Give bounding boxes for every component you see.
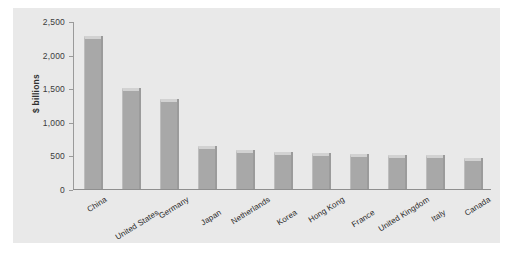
y-tick: [69, 89, 73, 90]
y-tick-label: 500: [50, 151, 65, 161]
x-axis-tick-label: France: [350, 208, 376, 229]
y-tick: [69, 190, 73, 191]
x-label-slot: France: [340, 191, 378, 243]
y-tick: [69, 22, 73, 23]
x-label-slot: Japan: [188, 191, 226, 243]
bar-slot: [453, 22, 491, 189]
bar-slot: [415, 22, 453, 189]
x-label-slot: Korea: [264, 191, 302, 243]
y-tick: [69, 156, 73, 157]
y-tick-label: 1,000: [43, 118, 65, 128]
x-label-slot: Canada: [454, 191, 492, 243]
bar-slot: [377, 22, 415, 189]
bar: [84, 36, 101, 189]
plot-area: 2,5002,0001,5001,0005000: [73, 22, 491, 190]
bar-slot: [264, 22, 302, 189]
y-tick: [69, 56, 73, 57]
y-tick: [69, 123, 73, 124]
bar: [350, 154, 367, 189]
bar-group: [74, 22, 491, 189]
bar-slot: [112, 22, 150, 189]
x-axis-tick-label: Canada: [463, 195, 492, 218]
bar: [236, 150, 253, 189]
x-axis-labels: ChinaUnited StatesGermanyJapanNetherland…: [74, 191, 492, 243]
bar: [312, 153, 329, 189]
y-tick-label: 2,500: [43, 17, 65, 27]
x-axis-tick-label: China: [86, 195, 109, 214]
bar-slot: [74, 22, 112, 189]
bar: [464, 158, 481, 189]
x-axis-tick-label: Japan: [199, 208, 223, 227]
chart-panel: $ billions 2,5002,0001,5001,0005000 Chin…: [13, 8, 500, 243]
y-tick-label: 2,000: [43, 51, 65, 61]
x-label-slot: Netherlands: [226, 191, 264, 243]
x-label-slot: United Kingdom: [378, 191, 416, 243]
x-label-slot: United States: [112, 191, 150, 243]
x-axis-tick-label: Korea: [275, 208, 298, 227]
x-axis-tick-label: Italy: [430, 208, 448, 224]
bar-slot: [339, 22, 377, 189]
y-tick-label: 0: [60, 185, 65, 195]
x-label-slot: Germany: [150, 191, 188, 243]
x-label-slot: China: [74, 191, 112, 243]
bar-slot: [226, 22, 264, 189]
bar: [160, 99, 177, 189]
bar-slot: [301, 22, 339, 189]
bar: [122, 88, 139, 189]
x-label-slot: Hong Kong: [302, 191, 340, 243]
bar: [388, 155, 405, 189]
x-label-slot: Italy: [416, 191, 454, 243]
x-axis-line: [73, 189, 491, 190]
bar-slot: [150, 22, 188, 189]
bar: [198, 146, 215, 189]
x-axis-tick-label: Germany: [157, 195, 190, 220]
bar: [274, 152, 291, 189]
y-axis-label: $ billions: [31, 74, 41, 113]
bar: [426, 155, 443, 189]
bar-slot: [188, 22, 226, 189]
y-tick-label: 1,500: [43, 84, 65, 94]
